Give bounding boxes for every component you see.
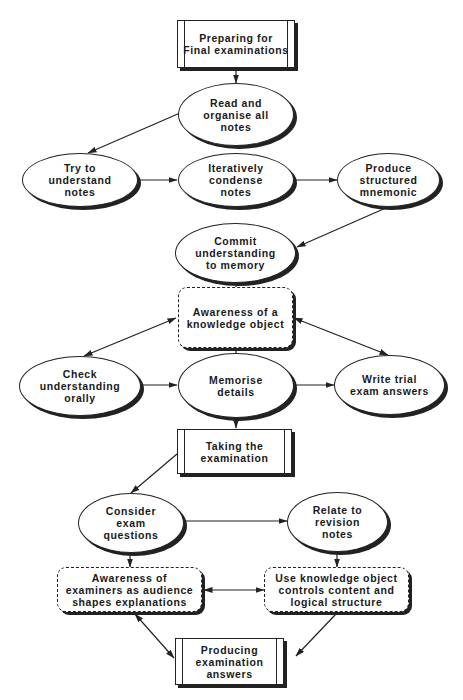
node-label: Try to understand notes xyxy=(48,162,111,198)
edge-mnemonic-commit xyxy=(297,207,388,247)
node-taking-examination: Taking the examination xyxy=(177,429,292,474)
edge-awareness-producing xyxy=(135,614,174,658)
node-label: Consider exam questions xyxy=(104,505,159,541)
node-label: Iteratively condense notes xyxy=(208,162,264,198)
node-label: Read and organise all notes xyxy=(203,97,269,133)
node-check-understanding-orally: Check understanding orally xyxy=(19,356,141,416)
node-label: Relate to revision notes xyxy=(313,504,363,540)
node-write-trial-exam-answers: Write trial exam answers xyxy=(334,355,445,415)
edge-taking-consider xyxy=(131,454,177,493)
edge-ko-check xyxy=(84,318,176,356)
node-label: Taking the examination xyxy=(201,440,269,464)
node-label: Memorise details xyxy=(209,374,263,398)
node-label: Write trial exam answers xyxy=(350,373,429,397)
node-producing-examination-answers: Producing examination answers xyxy=(175,638,284,685)
node-label: Check understanding orally xyxy=(40,368,121,404)
node-label: Awareness of a knowledge object xyxy=(187,306,285,330)
node-consider-exam-questions: Consider exam questions xyxy=(78,493,184,553)
node-label: Awareness of examiners as audience shape… xyxy=(66,572,194,608)
node-read-organise-notes: Read and organise all notes xyxy=(178,83,294,146)
node-memorise-details: Memorise details xyxy=(178,353,294,418)
node-label: Producing examination answers xyxy=(196,644,264,680)
node-label: Produce structured mnemonic xyxy=(360,162,418,198)
node-awareness-examiners-audience: Awareness of examiners as audience shape… xyxy=(57,567,202,612)
edge-read-try xyxy=(88,113,180,153)
node-awareness-knowledge-object: Awareness of a knowledge object xyxy=(178,287,293,348)
node-commit-understanding-memory: Commit understanding to memory xyxy=(175,223,296,283)
node-label: Preparing for Final examinations xyxy=(183,32,288,56)
node-produce-structured-mnemonic: Produce structured mnemonic xyxy=(337,153,440,207)
node-label: Use knowledge object controls content an… xyxy=(275,572,397,608)
node-try-understand-notes: Try to understand notes xyxy=(22,153,138,207)
node-preparing-final-exams: Preparing for Final examinations xyxy=(177,20,295,68)
node-iteratively-condense-notes: Iteratively condense notes xyxy=(178,153,294,207)
edge-useko-producing xyxy=(296,614,336,656)
flow-diagram: Preparing for Final examinations Read an… xyxy=(0,0,463,700)
edge-ko-write xyxy=(294,318,388,355)
node-use-knowledge-object: Use knowledge object controls content an… xyxy=(264,567,409,612)
node-label: Commit understanding to memory xyxy=(195,235,276,271)
node-relate-revision-notes: Relate to revision notes xyxy=(287,492,388,552)
